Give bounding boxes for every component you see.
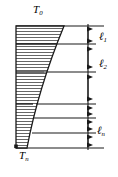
temperature-profile-figure: T0 Tn ℓ1 ℓ2 ℓn (0, 0, 118, 177)
corner-marker (14, 145, 18, 149)
diagram-canvas (0, 0, 118, 177)
label-layer-1: ℓ1 (99, 31, 107, 43)
label-top-temperature: T0 (33, 4, 43, 16)
label-layer-2: ℓ2 (99, 58, 107, 70)
label-bottom-temperature: Tn (19, 150, 29, 162)
profile-hatching (14, 24, 68, 150)
label-layer-n: ℓn (97, 125, 105, 137)
